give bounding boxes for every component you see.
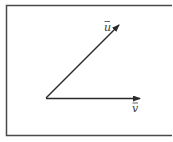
vector-v-letter: v — [132, 102, 139, 115]
vector-u-arrow — [46, 25, 119, 98]
vector-diagram: u v — [0, 0, 172, 142]
diagram-frame — [7, 6, 173, 136]
vector-u-letter: u — [104, 21, 111, 34]
vector-u-label: u — [104, 21, 111, 34]
vector-v-label: v — [132, 102, 139, 115]
